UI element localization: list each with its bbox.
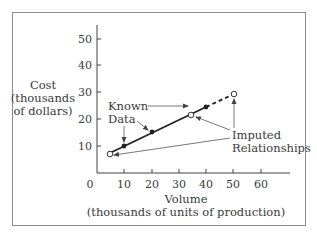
chart-svg: 10 20 30 40 50 0 10 20 30 40 50 60 Cost … (0, 0, 317, 239)
x-axis-title: Volume (thousands of units of production… (87, 192, 285, 219)
y-ticks (97, 39, 101, 146)
svg-text:Imputed: Imputed (232, 128, 282, 142)
svg-text:10: 10 (78, 140, 92, 153)
svg-text:Cost: Cost (30, 78, 57, 92)
svg-text:(thousands of units of product: (thousands of units of production) (87, 205, 285, 219)
svg-text:0: 0 (87, 178, 94, 191)
svg-text:of dollars): of dollars) (13, 104, 72, 118)
svg-text:10: 10 (117, 178, 131, 191)
svg-text:Data: Data (108, 112, 136, 126)
y-tick-labels: 10 20 30 40 50 (78, 33, 92, 153)
known-data-label: Known Data (108, 99, 149, 126)
x-tick-labels: 0 10 20 30 40 50 60 (87, 178, 269, 191)
svg-text:Relationships: Relationships (232, 141, 311, 155)
svg-text:20: 20 (78, 113, 92, 126)
svg-text:Known: Known (108, 99, 149, 113)
data-line-dashed (206, 94, 234, 107)
svg-text:30: 30 (78, 86, 92, 99)
svg-text:40: 40 (78, 59, 92, 72)
x-ticks (124, 169, 261, 173)
svg-text:40: 40 (199, 178, 213, 191)
y-axis-title: Cost (thousands of dollars) (11, 78, 75, 118)
svg-text:Volume: Volume (164, 192, 208, 206)
svg-text:60: 60 (254, 178, 268, 191)
svg-text:(thousands: (thousands (11, 91, 75, 105)
svg-text:50: 50 (226, 178, 240, 191)
svg-text:50: 50 (78, 33, 92, 46)
svg-text:20: 20 (145, 178, 159, 191)
imputed-label: Imputed Relationships (232, 128, 311, 155)
svg-text:30: 30 (172, 178, 186, 191)
